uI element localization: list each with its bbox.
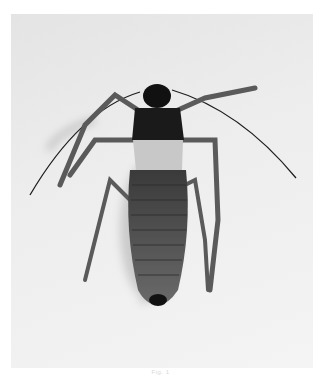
figure-caption: Fig. 1 bbox=[0, 369, 321, 375]
specimen-photo bbox=[11, 14, 313, 368]
thorax bbox=[133, 140, 183, 170]
left-antenna bbox=[30, 92, 140, 195]
abdomen bbox=[128, 170, 188, 305]
insect-illustration bbox=[11, 14, 313, 368]
head bbox=[143, 84, 171, 108]
pronotum bbox=[132, 108, 184, 140]
